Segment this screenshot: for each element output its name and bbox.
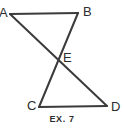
vertex-label-e: E [63, 51, 72, 64]
vertex-label-b: B [83, 5, 92, 18]
figure-canvas [0, 0, 124, 130]
vertex-label-d: D [111, 100, 120, 113]
geometry-figure: A B E C D EX. 7 [0, 0, 124, 130]
segment-bc [39, 13, 78, 107]
segment-cd [39, 106, 107, 107]
segment-ab [10, 13, 78, 14]
figure-caption: EX. 7 [0, 114, 124, 124]
vertex-label-c: C [27, 99, 36, 112]
vertex-label-a: A [0, 6, 8, 19]
